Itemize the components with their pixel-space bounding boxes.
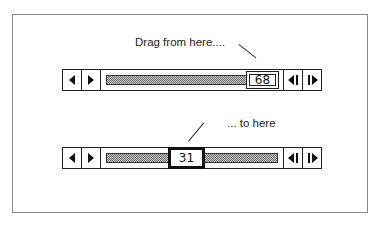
scroll-right-button[interactable] — [82, 148, 101, 168]
triangle-right-icon — [87, 153, 95, 163]
scroll-track[interactable]: 31 — [101, 148, 283, 168]
triangle-right-icon — [87, 75, 95, 85]
step-back-icon — [288, 75, 299, 85]
thumb-value: 31 — [179, 151, 194, 165]
scrollbar-before[interactable]: 68 — [62, 69, 322, 91]
scroll-thumb-dragging[interactable]: 31 — [168, 147, 205, 169]
scroll-thumb[interactable]: 68 — [246, 71, 279, 89]
scroll-track[interactable]: 68 — [101, 70, 283, 90]
scroll-left-button[interactable] — [63, 70, 82, 90]
scroll-right-button[interactable] — [82, 70, 101, 90]
step-forward-icon — [307, 153, 318, 163]
step-forward-icon — [307, 75, 318, 85]
caption-to-here: ... to here — [227, 117, 276, 129]
step-back-icon — [288, 153, 299, 163]
step-forward-button[interactable] — [302, 70, 321, 90]
scroll-left-button[interactable] — [63, 148, 82, 168]
track-fill-left — [106, 75, 249, 85]
caption-drag-from: Drag from here.... — [135, 36, 225, 48]
thumb-value: 68 — [255, 73, 270, 87]
step-back-button[interactable] — [283, 148, 302, 168]
triangle-left-icon — [68, 75, 76, 85]
scrollbar-after[interactable]: 31 — [62, 147, 322, 169]
step-back-button[interactable] — [283, 70, 302, 90]
triangle-left-icon — [68, 153, 76, 163]
step-forward-button[interactable] — [302, 148, 321, 168]
